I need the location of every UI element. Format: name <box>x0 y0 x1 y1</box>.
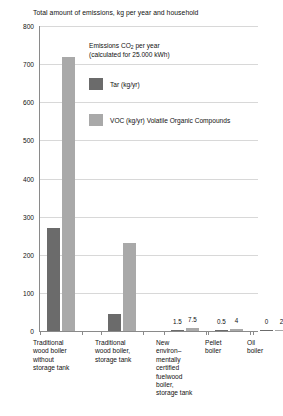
legend-item-voc: VOC (kg/yr) Volatile Organic Compounds <box>89 114 230 126</box>
bar-voc <box>275 330 283 331</box>
x-axis-category-label-1: Traditionalwood boiler,storage tank <box>95 339 153 364</box>
y-axis-tick-label: 100 <box>23 289 34 296</box>
x-axis-tick <box>82 331 83 335</box>
bar-tar <box>260 330 273 331</box>
category-label-line: fuelwood <box>156 373 200 381</box>
y-axis-tick-label: 300 <box>23 213 34 220</box>
plot-area: 1.57.50.5402 <box>39 26 258 331</box>
legend-label-voc: VOC (kg/yr) Volatile Organic Compounds <box>110 117 230 124</box>
x-axis-category-label-2: Newenviron–mentallycertifiedfuelwoodboil… <box>156 339 200 398</box>
legend-swatch-voc <box>89 114 103 126</box>
bar-value-label: 0.5 <box>217 318 226 325</box>
x-axis-tick <box>250 331 251 335</box>
legend-header: Emissions CO2 per year (calculated for 2… <box>89 42 170 59</box>
y-axis-tick-label: 200 <box>23 251 34 258</box>
x-axis-category-label-4: Oilboiler <box>247 339 281 356</box>
category-label-line: wood boiler, <box>95 347 153 355</box>
bar-voc <box>62 57 75 332</box>
category-label-line: wood boiler <box>33 347 93 355</box>
bar-tar <box>47 228 60 331</box>
x-axis-category-label-0: Traditionalwood boilerwithoutstorage tan… <box>33 339 93 373</box>
category-label-line: boiler <box>247 347 281 355</box>
x-axis-tick <box>208 331 209 335</box>
category-label-line: boiler, <box>156 381 200 389</box>
category-label-line: Oil <box>247 339 281 347</box>
y-axis-tick-label: 500 <box>23 137 34 144</box>
category-label-line: Pellet <box>205 339 239 347</box>
category-label-line: storage tank <box>33 364 93 372</box>
chart-title: Total amount of emissions, kg per year a… <box>33 9 198 16</box>
x-axis-line <box>39 331 258 332</box>
x-axis-category-label-3: Pelletboiler <box>205 339 239 356</box>
x-axis-tick <box>101 331 102 335</box>
y-axis-tick-label: 400 <box>23 175 34 182</box>
y-axis-tick-label: 0 <box>30 328 34 335</box>
category-label-line: environ– <box>156 347 200 355</box>
x-axis-tick <box>253 331 254 335</box>
bar-value-label: 0 <box>265 318 269 325</box>
bar-tar <box>108 314 121 331</box>
x-axis-tick <box>143 331 144 335</box>
bar-voc <box>123 243 136 331</box>
bar-value-label: 4 <box>235 317 239 324</box>
category-label-line: storage tank <box>95 356 153 364</box>
category-label-line: certified <box>156 364 200 372</box>
bar-value-label: 1.5 <box>173 318 182 325</box>
category-label-line: storage tank <box>156 389 200 397</box>
y-axis-line <box>39 26 40 332</box>
legend-header-line1: Emissions CO2 per year <box>89 42 160 49</box>
emissions-bar-chart: Total amount of emissions, kg per year a… <box>0 0 283 416</box>
category-label-line: boiler <box>205 347 239 355</box>
co2-subscript: 2 <box>131 44 134 50</box>
y-axis-tick-labels: 0100200300400500600700800 <box>0 26 34 331</box>
bar-value-label: 7.5 <box>188 316 197 323</box>
x-axis-tick <box>40 331 41 335</box>
y-axis-tick-label: 800 <box>23 23 34 30</box>
legend-label-tar: Tar (kg/yr) <box>110 81 140 88</box>
x-axis-tick <box>206 331 207 335</box>
grid-line <box>39 26 258 27</box>
legend-item-tar: Tar (kg/yr) <box>89 78 140 90</box>
y-axis-tick-label: 600 <box>23 99 34 106</box>
category-label-line: Traditional <box>95 339 153 347</box>
category-label-line: New <box>156 339 200 347</box>
category-label-line: Traditional <box>33 339 93 347</box>
legend-header-line2: (calculated for 25.000 kWh) <box>89 51 170 58</box>
legend-swatch-tar <box>89 78 103 90</box>
category-label-line: mentally <box>156 356 200 364</box>
category-label-line: without <box>33 356 93 364</box>
bar-value-label: 2 <box>280 318 283 325</box>
x-axis-tick <box>164 331 165 335</box>
y-axis-tick-label: 700 <box>23 61 34 68</box>
